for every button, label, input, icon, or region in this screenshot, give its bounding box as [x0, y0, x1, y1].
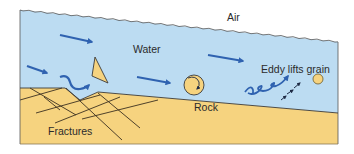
fractures-label: Fractures: [48, 126, 92, 137]
erosion-diagram: Air Water Eddy lifts grain Rock Fracture…: [0, 0, 354, 154]
rock-label: Rock: [194, 102, 218, 113]
eddy-label: Eddy lifts grain: [261, 64, 330, 75]
rock-icon: [184, 75, 204, 95]
air-label: Air: [227, 12, 240, 23]
water-label: Water: [133, 44, 161, 55]
grain-icon: [313, 74, 323, 84]
